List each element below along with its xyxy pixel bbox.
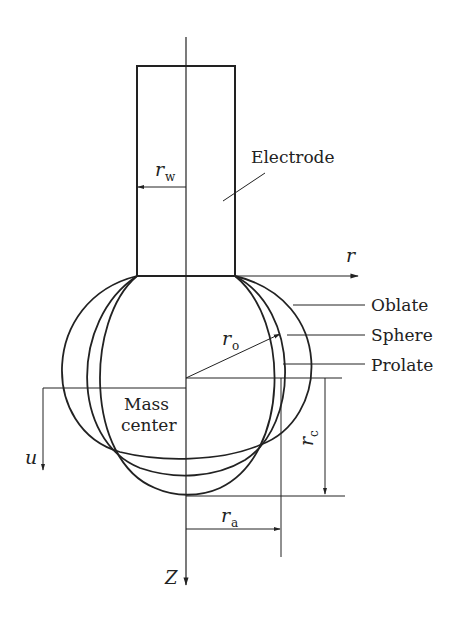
oblate-label: Oblate — [371, 295, 428, 315]
diagram-svg: Electrode r w r r o Oblate Sphere Prolat… — [0, 0, 456, 618]
electrode-label: Electrode — [251, 147, 335, 167]
sphere-label: Sphere — [371, 325, 433, 345]
r-axis-label: r — [346, 244, 357, 266]
electrode-leader — [223, 173, 265, 201]
z-label: Z — [164, 567, 178, 588]
rw-sub: w — [165, 170, 176, 184]
prolate-outline — [100, 276, 275, 495]
u-label: u — [25, 446, 37, 468]
ra-sub: a — [231, 516, 238, 530]
center-label: center — [121, 415, 177, 435]
mass-label: Mass — [124, 394, 169, 414]
prolate-label: Prolate — [371, 355, 433, 375]
rc-sub: c — [307, 430, 321, 437]
droplet-diagram: Electrode r w r r o Oblate Sphere Prolat… — [0, 0, 456, 618]
ro-sub: o — [232, 339, 239, 353]
